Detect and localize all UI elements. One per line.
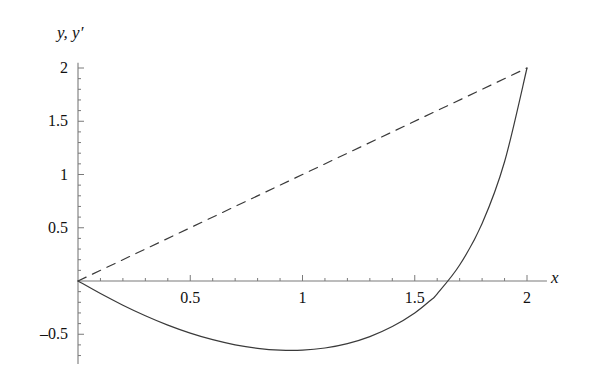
y-tick-label: 1.5	[8, 113, 68, 129]
y-tick-label: 0.5	[8, 220, 68, 236]
series-group	[78, 68, 527, 350]
x-tick-label: 0.5	[160, 290, 220, 306]
x-tick-label: 1.5	[385, 290, 445, 306]
y-tick-label: 2	[8, 60, 68, 76]
ticks-group	[78, 68, 527, 356]
series-line-y	[78, 68, 527, 350]
plot-canvas	[0, 0, 598, 377]
x-tick-label: 2	[497, 290, 557, 306]
x-axis-label: x	[551, 269, 559, 286]
series-line-y-prime	[78, 68, 527, 281]
plot-figure: y, y′ x 0.511.52–0.50.511.52	[0, 0, 598, 377]
y-tick-label: 1	[8, 167, 68, 183]
x-tick-label: 1	[273, 290, 333, 306]
axes-group	[78, 63, 547, 364]
y-axis-label: y, y′	[57, 24, 83, 41]
y-tick-label: –0.5	[8, 326, 68, 342]
